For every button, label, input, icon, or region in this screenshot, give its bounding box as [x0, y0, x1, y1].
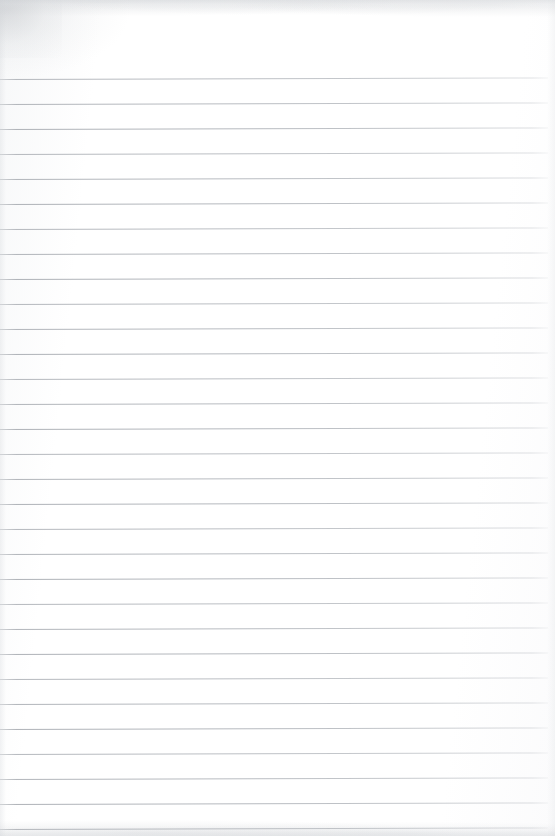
ruled-line	[0, 402, 548, 405]
ruled-line	[0, 802, 548, 805]
ruled-line	[0, 602, 548, 605]
ruled-line	[0, 502, 548, 505]
ruled-line	[0, 202, 548, 205]
ruled-line	[0, 277, 548, 280]
ruled-line	[0, 327, 548, 330]
ruled-line	[0, 77, 548, 80]
ruled-line	[0, 677, 548, 680]
notebook-page	[0, 0, 555, 836]
ruled-line	[0, 302, 548, 305]
ruled-line	[0, 752, 548, 755]
ruled-line	[0, 427, 548, 430]
ruled-line	[0, 352, 548, 355]
ruled-line	[0, 227, 548, 230]
ruled-line	[0, 777, 548, 780]
ruled-line	[0, 177, 548, 180]
ruled-line	[0, 477, 548, 480]
ruled-line	[0, 827, 548, 830]
ruled-line	[0, 552, 548, 555]
ruled-line	[0, 627, 548, 630]
ruled-line	[0, 127, 548, 130]
ruled-line	[0, 652, 548, 655]
ruled-lines-group	[0, 0, 555, 836]
ruled-line	[0, 577, 548, 580]
ruled-line	[0, 727, 548, 730]
ruled-line	[0, 102, 548, 105]
ruled-line	[0, 377, 548, 380]
ruled-line	[0, 152, 548, 155]
ruled-line	[0, 702, 548, 705]
ruled-line	[0, 252, 548, 255]
ruled-line	[0, 527, 548, 530]
ruled-line	[0, 452, 548, 455]
